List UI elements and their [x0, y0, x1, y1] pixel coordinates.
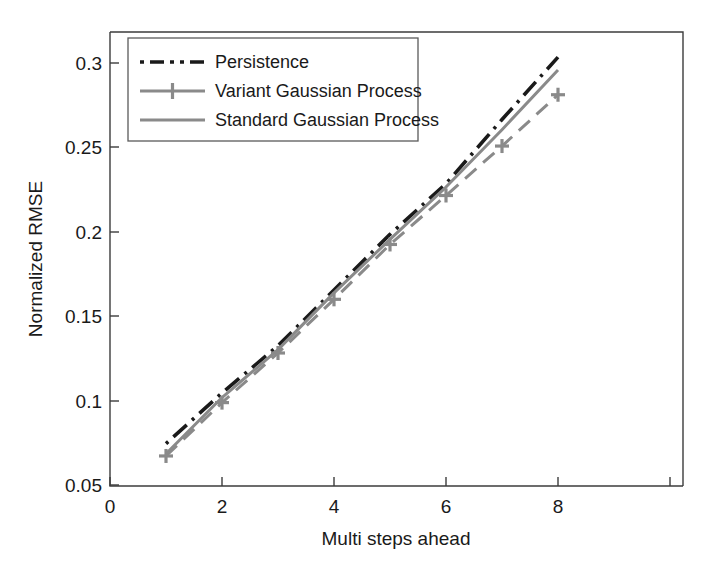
x-tick-label: 2 — [217, 496, 228, 517]
y-tick-label: 0.25 — [65, 137, 102, 158]
rmse-line-chart: 0.3 0.25 0.2 0.15 0.1 0.05 0 2 4 6 8 Mul… — [0, 0, 717, 563]
x-axis-title: Multi steps ahead — [322, 528, 471, 549]
legend-label-standard-gp: Standard Gaussian Process — [215, 110, 439, 130]
y-tick-label: 0.3 — [76, 53, 102, 74]
figure-container: 0.3 0.25 0.2 0.15 0.1 0.05 0 2 4 6 8 Mul… — [0, 0, 717, 563]
x-tick-label: 0 — [105, 496, 116, 517]
legend-label-variant-gp: Variant Gaussian Process — [215, 81, 422, 101]
legend: Persistence Variant Gaussian Process Sta… — [128, 38, 439, 141]
y-tick-label: 0.1 — [76, 391, 102, 412]
y-axis-title: Normalized RMSE — [25, 181, 46, 337]
x-tick-label: 8 — [553, 496, 564, 517]
x-tick-label: 4 — [329, 496, 340, 517]
y-tick-label: 0.05 — [65, 475, 102, 496]
legend-label-persistence: Persistence — [215, 52, 309, 72]
x-tick-label: 6 — [441, 496, 452, 517]
y-tick-label: 0.15 — [65, 306, 102, 327]
y-tick-label: 0.2 — [76, 222, 102, 243]
